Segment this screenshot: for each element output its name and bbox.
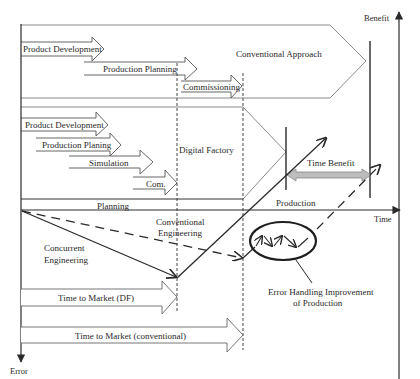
svg-text:Concurrent: Concurrent	[44, 243, 85, 253]
time-to-market-df-arrow: Time to Market (DF)	[21, 281, 177, 314]
callout-line	[296, 260, 312, 283]
conventional-approach-label: Conventional Approach	[236, 49, 322, 59]
svg-text:Error Handling Improvement: Error Handling Improvement	[268, 287, 374, 297]
df-step-product-development: Product Development	[21, 112, 108, 136]
time-benefit-arrow: Time Benefit	[287, 158, 371, 181]
svg-text:Simulation: Simulation	[89, 158, 129, 168]
svg-text:Product Development: Product Development	[25, 120, 104, 130]
df-step-production-planing: Production Planing	[36, 133, 121, 156]
conventional-step-production-planning: Production Planning	[84, 57, 197, 80]
benefit-axis-label: Benefit	[364, 13, 390, 23]
digital-factory-label: Digital Factory	[179, 145, 234, 155]
error-axis-label: Error	[10, 366, 28, 376]
svg-text:of Production: of Production	[293, 298, 343, 308]
error-handling-ellipse: Error Handling Improvement of Production	[250, 222, 374, 308]
time-to-market-conventional-arrow: Time to Market (conventional)	[21, 318, 243, 352]
svg-text:Production Planning: Production Planning	[103, 64, 177, 74]
svg-text:Product Development: Product Development	[23, 44, 102, 54]
production-label: Production	[276, 198, 316, 208]
svg-text:Conventional: Conventional	[156, 217, 205, 227]
time-benefit-label: Time Benefit	[307, 158, 355, 168]
conventional-step-commissioning: Commissioning	[181, 75, 242, 98]
time-axis-label: Time	[374, 214, 392, 224]
svg-text:Engineering: Engineering	[44, 255, 88, 265]
diagram-canvas: Conventional Approach Product Developmen…	[0, 0, 420, 379]
svg-text:Production Planing: Production Planing	[42, 140, 112, 150]
concurrent-engineering-curve: Concurrent Engineering	[22, 138, 326, 278]
svg-text:Time to Market (DF): Time to Market (DF)	[58, 293, 134, 303]
svg-text:Time to Market (conventional): Time to Market (conventional)	[75, 331, 186, 341]
svg-text:Commissioning: Commissioning	[183, 82, 241, 92]
conventional-step-product-development: Product Development	[21, 37, 104, 61]
svg-text:Com.: Com.	[146, 179, 166, 189]
svg-text:Engineering: Engineering	[158, 228, 202, 238]
